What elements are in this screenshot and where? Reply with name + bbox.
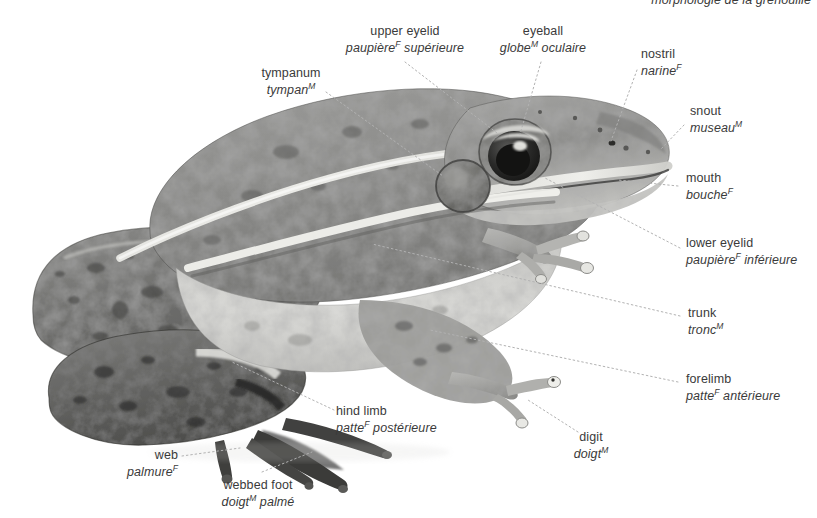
label-tympanum: tympanum tympanM — [236, 66, 346, 99]
label-digit-fr: doigtM — [548, 445, 634, 462]
label-digit-en: digit — [548, 430, 634, 445]
label-tympanum-fr: tympanM — [236, 81, 346, 98]
label-trunk-en: trunk — [688, 306, 723, 321]
label-upper-eyelid-en: upper eyelid — [330, 24, 480, 39]
label-lower-eyelid-en: lower eyelid — [686, 236, 797, 251]
label-snout-en: snout — [690, 104, 742, 119]
label-web-en: web — [56, 448, 178, 463]
label-nostril: nostril narineF — [641, 47, 682, 80]
label-webbed-foot: webbed foot doigtM palmé — [196, 478, 320, 511]
label-upper-eyelid-fr: paupièreF supérieure — [330, 39, 480, 56]
label-trunk: trunk troncM — [688, 306, 723, 339]
label-webbed-foot-fr: doigtM palmé — [196, 493, 320, 510]
label-web-fr: palmureF — [56, 463, 178, 480]
label-forelimb-fr: patteF antérieure — [686, 387, 780, 404]
label-hind-limb-fr: patteF postérieure — [336, 419, 437, 436]
label-forelimb: forelimb patteF antérieure — [686, 372, 780, 405]
label-mouth-fr: boucheF — [686, 186, 733, 203]
diagram-canvas: morphologie de la grenouille upper eyeli… — [0, 0, 817, 518]
nostril-shape — [609, 140, 616, 145]
label-web: web palmureF — [56, 448, 178, 481]
label-trunk-fr: troncM — [688, 321, 723, 338]
label-eyeball-fr: globeM oculaire — [488, 39, 598, 56]
label-nostril-en: nostril — [641, 47, 682, 62]
label-forelimb-en: forelimb — [686, 372, 780, 387]
eyeball-shape — [479, 119, 551, 185]
label-webbed-foot-en: webbed foot — [196, 478, 320, 493]
page-title: morphologie de la grenouille — [651, 0, 811, 7]
label-tympanum-en: tympanum — [236, 66, 346, 81]
label-digit: digit doigtM — [548, 430, 634, 463]
label-nostril-fr: narineF — [641, 62, 682, 79]
tympanum-shape — [436, 160, 490, 212]
label-lower-eyelid: lower eyelid paupièreF inférieure — [686, 236, 797, 269]
label-hind-limb-en: hind limb — [336, 404, 437, 419]
label-snout-fr: museauM — [690, 119, 742, 136]
label-snout: snout museauM — [690, 104, 742, 137]
label-mouth-en: mouth — [686, 171, 733, 186]
label-eyeball-en: eyeball — [488, 24, 598, 39]
label-mouth: mouth boucheF — [686, 171, 733, 204]
label-eyeball: eyeball globeM oculaire — [488, 24, 598, 57]
label-upper-eyelid: upper eyelid paupièreF supérieure — [330, 24, 480, 57]
label-hind-limb: hind limb patteF postérieure — [336, 404, 437, 437]
label-lower-eyelid-fr: paupièreF inférieure — [686, 251, 797, 268]
